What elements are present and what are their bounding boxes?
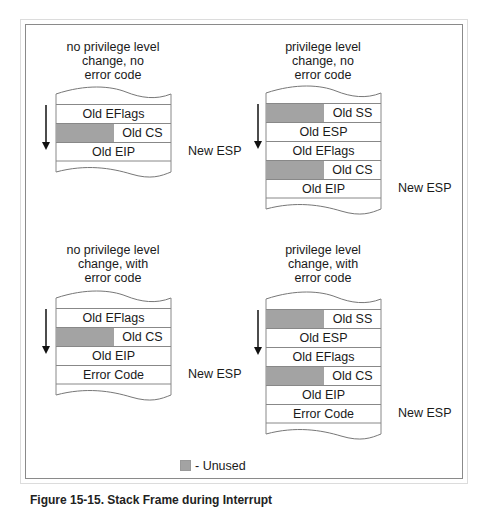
stack-row-label: Old EIP <box>302 388 345 402</box>
unused-area <box>266 367 324 385</box>
legend-label: - Unused <box>195 459 246 473</box>
stack-row-label: Old EFlags <box>293 350 355 364</box>
arrow-head-icon <box>254 347 262 355</box>
stack-row: Old SS <box>266 309 381 328</box>
stack-row: Old EFlags <box>266 347 381 366</box>
stack-row: Old EIP <box>266 385 381 404</box>
legend: - Unused <box>180 459 246 473</box>
new-esp-label: New ESP <box>398 404 452 423</box>
stack-row-label: Error Code <box>293 407 354 421</box>
unused-swatch-icon <box>180 460 191 471</box>
bottom-wave-edge <box>266 430 381 440</box>
stack-row: Error Code <box>266 404 381 423</box>
stack-row-label: Old CS <box>324 367 381 386</box>
stack-row-label: Old SS <box>324 310 381 329</box>
stack-row-label: Old ESP <box>300 331 348 345</box>
stack-row: Old ESP <box>266 328 381 347</box>
stack-row: Old CS <box>266 366 381 385</box>
unused-area <box>266 310 324 328</box>
figure-caption: Figure 15-15. Stack Frame during Interru… <box>30 493 272 507</box>
top-wave-edge <box>266 292 381 303</box>
